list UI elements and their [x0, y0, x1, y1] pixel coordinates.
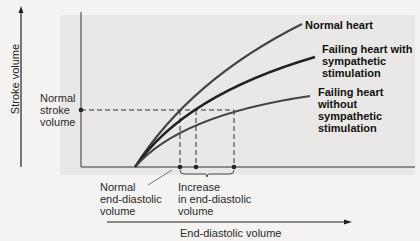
label-line: without: [318, 98, 383, 110]
curve-failing-with-sympathetic: [135, 57, 315, 167]
edv-dot-2: [194, 165, 199, 170]
increase-edv-label: Increase in end-diastolic volume: [178, 181, 251, 217]
normal-stroke-volume-label: Normal stroke volume: [40, 92, 75, 128]
legend-normal-heart: Normal heart: [305, 19, 373, 31]
label-line: volume: [100, 205, 162, 217]
edv-dot-1: [178, 165, 183, 170]
label-line: Normal: [100, 181, 162, 193]
label-line: sympathetic: [318, 110, 383, 122]
label-line: sympathetic: [322, 55, 412, 67]
x-arrowhead-icon: [344, 220, 352, 225]
x-axis-label: End-diastolic volume: [180, 227, 282, 239]
edv-dot-3: [232, 165, 237, 170]
normal-edv-label: Normal end-diastolic volume: [100, 181, 162, 217]
label-line: stimulation: [318, 122, 383, 134]
legend-failing-with-sympathetic: Failing heart with sympathetic stimulati…: [322, 43, 412, 79]
label-line: Normal heart: [305, 19, 373, 31]
label-line: in end-diastolic: [178, 193, 251, 205]
label-line: end-diastolic: [100, 193, 162, 205]
y-arrowhead-icon: [19, 6, 24, 13]
label-line: stroke: [40, 104, 75, 116]
label-line: Normal: [40, 92, 75, 104]
label-line: Failing heart with: [322, 43, 412, 55]
increase-bracket: [180, 170, 234, 177]
y-axis-label: Stroke volume: [9, 39, 21, 119]
label-line: volume: [178, 205, 251, 217]
legend-failing-without-sympathetic: Failing heart without sympathetic stimul…: [318, 86, 383, 134]
label-line: volume: [40, 116, 75, 128]
label-line: Increase: [178, 181, 251, 193]
label-line: stimulation: [322, 67, 412, 79]
normal-sv-dot: [79, 108, 84, 113]
label-line: Failing heart: [318, 86, 383, 98]
